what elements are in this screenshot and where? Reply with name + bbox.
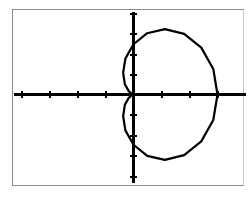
y-axis [130, 12, 137, 183]
plot-canvas [0, 0, 251, 197]
calculator-screen [0, 0, 251, 197]
